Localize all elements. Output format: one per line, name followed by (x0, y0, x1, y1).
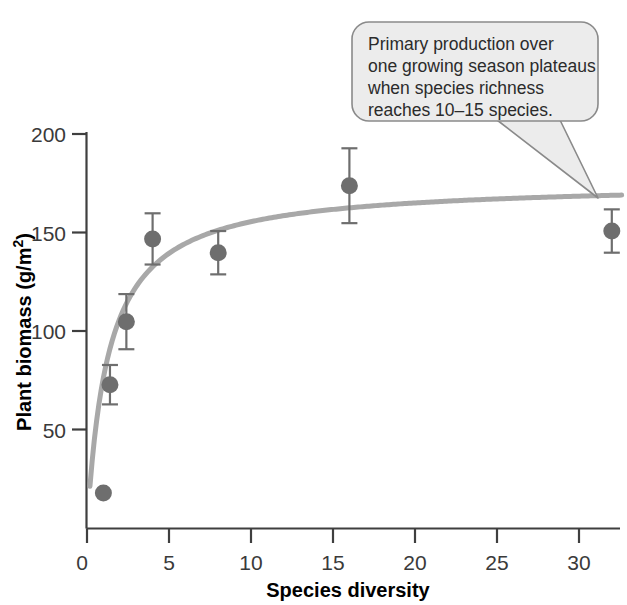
x-tick-label-0: 0 (76, 551, 88, 574)
y-tick-label-150: 150 (31, 222, 66, 245)
y-tick-label-50: 50 (43, 419, 66, 442)
y-axis-title-tail: ) (13, 233, 35, 240)
data-point-marker (210, 244, 227, 261)
svg-text:Plant biomass (g/m2): Plant biomass (g/m2) (10, 233, 35, 431)
y-tick-label-200: 200 (31, 123, 66, 146)
callout-line-2: one growing season plateaus (368, 56, 596, 76)
data-point-marker (118, 313, 135, 330)
x-tick-label-5: 5 (163, 551, 175, 574)
data-point-marker (341, 177, 358, 194)
data-point-marker (144, 230, 161, 247)
data-point-marker (101, 376, 118, 393)
plant-biomass-vs-species-diversity-chart: 200 150 100 50 0 5 10 15 20 25 30 Specie… (0, 0, 627, 605)
x-tick-label-20: 20 (403, 551, 426, 574)
data-point-group (95, 485, 112, 502)
y-tick-label-100: 100 (31, 320, 66, 343)
x-axis-title: Species diversity (266, 579, 430, 601)
y-axis-title: Plant biomass (g/m2) (10, 233, 35, 431)
x-tick-label-15: 15 (321, 551, 344, 574)
y-axis-title-main: Plant biomass (g/m (13, 248, 35, 431)
y-axis-title-superscript: 2 (10, 240, 26, 248)
x-tick-label-25: 25 (485, 551, 508, 574)
data-point-marker (95, 485, 112, 502)
x-tick-label-10: 10 (239, 551, 262, 574)
data-point-marker (603, 223, 620, 240)
callout-line-1: Primary production over (368, 34, 554, 54)
callout-line-3: when species richness (367, 78, 544, 98)
callout-line-4: reaches 10–15 species. (368, 100, 553, 120)
x-tick-label-30: 30 (567, 551, 590, 574)
